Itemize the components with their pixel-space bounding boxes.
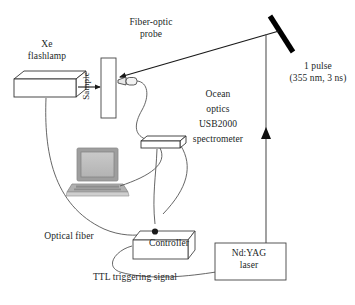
controller-connector-dot xyxy=(152,228,158,234)
label-one-pulse: 1 pulse (355 nm, 3 ns) xyxy=(283,61,353,84)
cable-spectrometer-to-controller xyxy=(163,146,187,214)
cable-probe-to-spectrometer xyxy=(136,81,147,139)
cable-spectrometer-bottom xyxy=(154,149,157,224)
laser-beam-arrowhead xyxy=(261,127,271,139)
label-ndyag-laser: Nd:YAG laser xyxy=(217,247,281,271)
label-controller: Controller xyxy=(139,238,199,250)
label-ttl-signal: TTL triggering signal xyxy=(62,272,208,284)
label-fiber-optic-probe: Fiber-optic probe xyxy=(95,17,207,40)
label-spectrometer: Ocean optics USB2000 spectrometer xyxy=(175,87,261,147)
label-xe-flashlamp: Xe flashlamp xyxy=(14,39,80,62)
label-optical-fiber: Optical fiber xyxy=(24,231,114,243)
sample-cuvette xyxy=(101,58,116,118)
label-sample: Sample xyxy=(81,57,93,115)
fiber-optic-probe-tip xyxy=(118,77,137,85)
optical-setup-diagram: Xe flashlamp Fiber-optic probe Sample 1 … xyxy=(0,0,355,305)
xe-flashlamp xyxy=(14,71,86,97)
mirror xyxy=(270,16,293,52)
laptop-computer xyxy=(66,148,129,196)
